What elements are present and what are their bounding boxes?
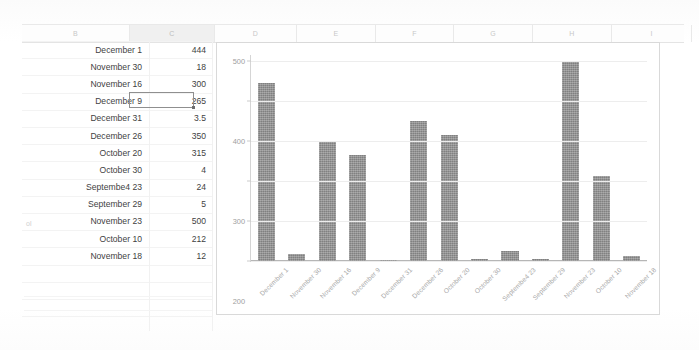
table-row[interactable]: September 29 5 — [22, 196, 212, 213]
plot-area: 0100200300400500 — [251, 61, 647, 261]
x-axis-labels: December 1November 30November 16December… — [251, 263, 647, 313]
row-label: November 23 — [22, 216, 149, 226]
bar-slot[interactable] — [586, 61, 616, 261]
bar[interactable] — [319, 141, 336, 261]
row-label: November 16 — [22, 79, 149, 89]
row-label: Septembe4 23 — [22, 182, 149, 192]
bar[interactable] — [562, 61, 579, 261]
column-header-f[interactable]: F — [376, 25, 454, 42]
bar[interactable] — [410, 121, 427, 261]
row-value: 24 — [149, 182, 212, 192]
bar-slot[interactable] — [556, 61, 586, 261]
table-row[interactable]: November 18 12 — [22, 247, 212, 264]
bar[interactable] — [501, 251, 518, 261]
y-tick-label: 300 — [233, 217, 245, 226]
row-value: 4 — [149, 165, 212, 175]
x-label-slot: December 26 — [403, 263, 433, 313]
bar-slot[interactable] — [312, 61, 342, 261]
table-row[interactable]: December 31 3.5 — [22, 110, 212, 127]
table-row[interactable]: Septembe4 23 24 — [22, 179, 212, 196]
bar-slot[interactable] — [403, 61, 433, 261]
y-gridline: 200 — [251, 181, 647, 182]
bar[interactable] — [349, 155, 366, 261]
bar-slot[interactable] — [281, 61, 311, 261]
x-label-slot: Septembe4 23 — [495, 263, 525, 313]
bar[interactable] — [288, 254, 305, 261]
y-tick-mark — [247, 181, 251, 182]
table-row[interactable]: December 26 350 — [22, 127, 212, 144]
y-tick-label: 400 — [233, 137, 245, 146]
bar-slot[interactable] — [342, 61, 372, 261]
y-gridline: 0 — [251, 261, 647, 262]
row-value: 315 — [149, 148, 212, 158]
column-header-g[interactable]: G — [454, 25, 533, 42]
table-row[interactable]: October 20 315 — [22, 144, 212, 161]
bar[interactable] — [593, 176, 610, 261]
row-value: 5 — [149, 199, 212, 209]
column-header-e[interactable]: E — [297, 25, 376, 42]
y-gridline: 400 — [251, 101, 647, 102]
bar-slot[interactable] — [251, 61, 281, 261]
table-row[interactable]: November 30 18 — [22, 58, 212, 75]
row-gridline — [22, 316, 212, 317]
row-value: 300 — [149, 79, 212, 89]
y-tick-mark — [247, 61, 251, 62]
row-value: 444 — [149, 45, 212, 55]
bar[interactable] — [258, 83, 275, 261]
row-value: 12 — [149, 251, 212, 261]
bar-slot[interactable] — [617, 61, 647, 261]
sheet-divider — [24, 310, 212, 311]
x-label-slot: December 31 — [373, 263, 403, 313]
column-header-b[interactable]: B — [22, 25, 130, 42]
x-label-slot: November 18 — [617, 263, 647, 313]
table-row[interactable]: October 30 4 — [22, 161, 212, 178]
row-label: October 20 — [22, 148, 149, 158]
bar-chart[interactable]: 0100200300400500 December 1November 30No… — [216, 42, 660, 315]
row-label: October 10 — [22, 234, 149, 244]
y-gridline: 100 — [251, 221, 647, 222]
column-header-d[interactable]: D — [215, 25, 297, 42]
row-label: November 30 — [22, 62, 149, 72]
row-gridline — [22, 299, 212, 300]
x-label-slot: October 20 — [434, 263, 464, 313]
row-label: October 30 — [22, 165, 149, 175]
y-tick-mark — [247, 261, 251, 262]
table-row[interactable]: October 10 212 — [22, 230, 212, 247]
row-value: 3.5 — [149, 113, 212, 123]
column-header-i[interactable]: I — [612, 25, 692, 42]
bar-slot[interactable] — [464, 61, 494, 261]
table-row[interactable]: November 16 300 — [22, 75, 212, 92]
y-gridline: 300 — [251, 141, 647, 142]
row-gridline — [22, 282, 212, 283]
column-header-c[interactable]: C — [130, 25, 215, 42]
x-label-slot: October 10 — [586, 263, 616, 313]
row-label: November 18 — [22, 251, 149, 261]
fill-handle[interactable] — [192, 106, 195, 109]
x-tick-label: November 18 — [623, 266, 657, 300]
x-label-slot: September 29 — [525, 263, 555, 313]
bar-slot[interactable] — [373, 61, 403, 261]
bar-slot[interactable] — [495, 61, 525, 261]
y-tick-label: 500 — [233, 57, 245, 66]
bar-slot[interactable] — [525, 61, 555, 261]
sheet-rows: December 1 444 November 30 18 November 1… — [22, 41, 212, 264]
x-label-slot: December 9 — [342, 263, 372, 313]
bar[interactable] — [441, 135, 458, 261]
active-cell-selection[interactable] — [129, 92, 194, 108]
bar-slot[interactable] — [434, 61, 464, 261]
sheet-divider — [24, 296, 212, 297]
column-header-h[interactable]: H — [533, 25, 612, 42]
y-gridline: 500 — [251, 61, 647, 62]
row-label: December 1 — [22, 45, 149, 55]
table-row[interactable]: November 23 500 — [22, 213, 212, 230]
edge-scan-artifact: ol — [26, 220, 31, 227]
bar-series — [251, 61, 647, 261]
x-label-slot: November 16 — [312, 263, 342, 313]
y-tick-mark — [247, 221, 251, 222]
x-label-slot: December 1 — [251, 263, 281, 313]
row-value: 18 — [149, 62, 212, 72]
row-value: 212 — [149, 234, 212, 244]
y-tick-mark — [247, 101, 251, 102]
table-row[interactable]: December 1 444 — [22, 41, 212, 58]
row-value: 350 — [149, 131, 212, 141]
